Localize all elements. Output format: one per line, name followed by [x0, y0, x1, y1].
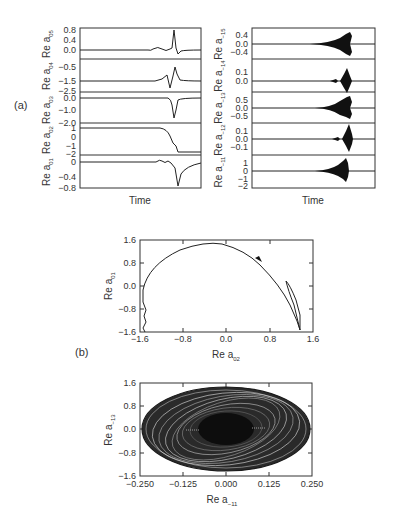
- y-ticks-b-bottom: 1.6 0.8 0.0 −0.8 −1.6: [118, 378, 136, 481]
- y-ticks-b-top: 1.6 0.8 0.0 −0.8 −1.6: [118, 235, 136, 337]
- y-ticks-a04: −0.5 −1.5 −2.5: [58, 62, 76, 96]
- svg-text:−0.1: −0.1: [230, 142, 248, 152]
- svg-text:Re a01: Re a01: [103, 271, 116, 299]
- svg-text:0.250: 0.250: [301, 479, 324, 489]
- panel-a-right: 0.4 0.0 −0.4 0.1 0.0 0.5 0.0 −0.5 0.1 0.…: [213, 28, 375, 206]
- svg-text:1.6: 1.6: [307, 334, 320, 344]
- svg-text:1.6: 1.6: [123, 235, 136, 245]
- svg-text:Re a02: Re a02: [41, 125, 54, 153]
- panel-b-label: (b): [75, 346, 88, 358]
- y-ticks-am15: 0.4 0.0 −0.4: [230, 30, 248, 57]
- series-a02: [80, 128, 201, 152]
- svg-text:−0.5: −0.5: [230, 111, 248, 121]
- series-a05: [80, 30, 201, 54]
- series-am11: [315, 158, 349, 182]
- series-am12: [332, 124, 353, 152]
- ylabel-a01: Re a01: [41, 157, 54, 185]
- left-plot-frame: [80, 28, 201, 188]
- svg-text:Re a−13: Re a−13: [103, 414, 116, 446]
- y-ticks-am12: 0.1 0.0 −0.1: [230, 126, 248, 152]
- svg-text:−0.8: −0.8: [58, 183, 76, 193]
- svg-text:Re a05: Re a05: [41, 29, 54, 57]
- svg-text:0.8: 0.8: [63, 25, 76, 35]
- svg-text:−0.4: −0.4: [58, 172, 76, 182]
- svg-text:Re a04: Re a04: [41, 61, 54, 89]
- panel-b-bottom: −0.250 −0.125 0.000 0.125 0.250 1.6 0.8 …: [103, 378, 323, 507]
- y-ticks-a02: 1 0 −1 −2: [66, 123, 76, 159]
- svg-text:Re a−14: Re a−14: [213, 60, 226, 92]
- ylabel-am13: Re a−13: [213, 92, 226, 124]
- x-ticks-b-top: −1.6 −0.8 0.0 0.8 1.6: [131, 334, 319, 344]
- y-ticks-am13: 0.5 0.0 −0.5: [230, 95, 248, 121]
- series-a04: [80, 67, 201, 88]
- svg-text:1.6: 1.6: [123, 378, 136, 388]
- panel-b-top: −1.6 −0.8 0.0 0.8 1.6 1.6 0.8 0.0 −0.8 −…: [103, 235, 319, 362]
- xlabel-b-top: Re a02: [212, 349, 240, 362]
- ylabel-a02: Re a02: [41, 125, 54, 153]
- svg-text:Re a−15: Re a−15: [213, 28, 226, 60]
- series-am14: [330, 68, 352, 93]
- svg-text:0.0: 0.0: [63, 93, 76, 103]
- dense-orbits: [142, 385, 310, 474]
- series-a03: [80, 98, 201, 118]
- ylabel-a05: Re a05: [41, 29, 54, 57]
- svg-text:−1.6: −1.6: [118, 327, 136, 337]
- svg-text:0.0: 0.0: [235, 76, 248, 86]
- svg-text:−0.125: −0.125: [169, 479, 197, 489]
- series-am15: [310, 32, 352, 56]
- series-a01: [80, 160, 201, 186]
- figure-canvas: (a) 0.8 0.4 0.0 −0.5 −1.5 −2.5 0.0 −1.: [0, 0, 393, 526]
- trajectory: [143, 243, 300, 332]
- svg-text:−0.4: −0.4: [230, 47, 248, 57]
- svg-text:−0.8: −0.8: [118, 304, 136, 314]
- ylabel-am14: Re a−14: [213, 60, 226, 92]
- svg-text:−0.8: −0.8: [118, 448, 136, 458]
- xlabel-b-bottom: Re a−11: [207, 494, 239, 507]
- svg-text:Re a03: Re a03: [41, 95, 54, 123]
- y-ticks-am14: 0.1 0.0: [235, 67, 248, 86]
- svg-text:−1.6: −1.6: [118, 471, 136, 481]
- svg-text:0.0: 0.0: [123, 281, 136, 291]
- svg-text:0.8: 0.8: [264, 334, 277, 344]
- svg-text:Re a−11: Re a−11: [213, 156, 226, 188]
- svg-text:−0.5: −0.5: [58, 62, 76, 72]
- ylabel-a04: Re a04: [41, 61, 54, 89]
- svg-text:0.000: 0.000: [215, 479, 238, 489]
- svg-text:0: 0: [71, 157, 76, 167]
- ylabel-am11: Re a−11: [213, 156, 226, 188]
- svg-text:Re a01: Re a01: [41, 157, 54, 185]
- y-ticks-a05: 0.8 0.4 0.0: [63, 25, 76, 55]
- panel-a-left: 0.8 0.4 0.0 −0.5 −1.5 −2.5 0.0 −1.0 −2.0…: [41, 25, 201, 206]
- svg-text:−2: −2: [238, 181, 248, 191]
- ylabel-b-bottom: Re a−13: [103, 414, 116, 446]
- svg-text:0.0: 0.0: [123, 424, 136, 434]
- ylabel-b-top: Re a01: [103, 271, 116, 299]
- svg-text:0.8: 0.8: [123, 258, 136, 268]
- svg-text:0.0: 0.0: [220, 334, 233, 344]
- xlabel-time-left: Time: [129, 195, 151, 206]
- svg-text:0.125: 0.125: [258, 479, 281, 489]
- ylabel-am12: Re a−12: [213, 124, 226, 156]
- panel-a-label: (a): [14, 99, 27, 111]
- svg-text:0.4: 0.4: [63, 35, 76, 45]
- svg-text:Re a−12: Re a−12: [213, 124, 226, 156]
- svg-text:−1.5: −1.5: [58, 76, 76, 86]
- svg-text:0.8: 0.8: [123, 401, 136, 411]
- y-ticks-a01: 0 −0.4 −0.8: [58, 157, 76, 193]
- ylabel-a03: Re a03: [41, 95, 54, 123]
- ylabel-am15: Re a−15: [213, 28, 226, 60]
- svg-text:Re a−13: Re a−13: [213, 92, 226, 124]
- x-ticks-b-bottom: −0.250 −0.125 0.000 0.125 0.250: [126, 479, 323, 489]
- svg-text:0.0: 0.0: [63, 45, 76, 55]
- y-ticks-am11: 1 0 −1 −2: [238, 158, 248, 191]
- svg-text:−1.0: −1.0: [58, 105, 76, 115]
- xlabel-time-right: Time: [302, 195, 324, 206]
- svg-text:−0.8: −0.8: [174, 334, 192, 344]
